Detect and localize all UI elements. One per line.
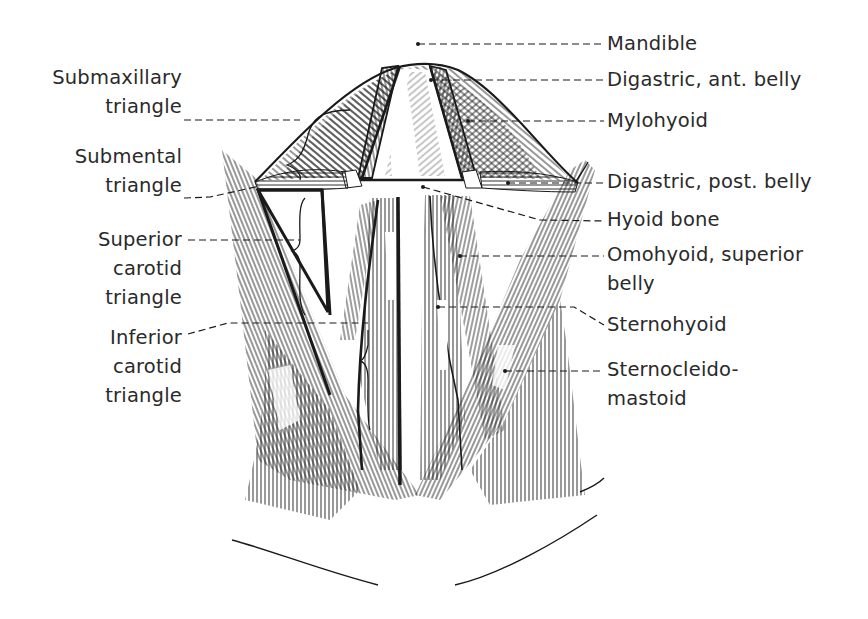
label-submaxillary-triangle: Submaxillary triangle: [52, 63, 182, 121]
label-line: Sternohyoid: [607, 310, 727, 339]
label-line: Omohyoid, superior: [607, 240, 803, 269]
label-digastric-post-belly: Digastric, post. belly: [607, 167, 812, 196]
label-line: carotid: [105, 352, 182, 381]
label-inferior-carotid-triangle: Inferior carotid triangle: [105, 323, 182, 410]
label-line: triangle: [52, 92, 182, 121]
label-submental-triangle: Submental triangle: [75, 142, 182, 200]
label-line: Superior: [98, 225, 182, 254]
label-superior-carotid-triangle: Superior carotid triangle: [98, 225, 182, 312]
label-line: Mylohyoid: [607, 106, 708, 135]
label-mandible: Mandible: [607, 29, 697, 58]
label-line: triangle: [105, 381, 182, 410]
label-line: Inferior: [105, 323, 182, 352]
label-line: triangle: [98, 283, 182, 312]
label-line: carotid: [98, 254, 182, 283]
label-line: Digastric, ant. belly: [607, 65, 801, 94]
label-line: Mandible: [607, 29, 697, 58]
label-line: mastoid: [607, 384, 739, 413]
label-omohyoid-superior-belly: Omohyoid, superior belly: [607, 240, 803, 298]
label-line: Submaxillary: [52, 63, 182, 92]
label-digastric-ant-belly: Digastric, ant. belly: [607, 65, 801, 94]
label-line: Hyoid bone: [607, 205, 720, 234]
label-hyoid-bone: Hyoid bone: [607, 205, 720, 234]
label-sternocleidomastoid: Sternocleido- mastoid: [607, 355, 739, 413]
mylohyoid-muscle: [260, 66, 575, 183]
label-sternohyoid: Sternohyoid: [607, 310, 727, 339]
label-line: belly: [607, 269, 803, 298]
label-line: triangle: [75, 171, 182, 200]
label-line: Digastric, post. belly: [607, 167, 812, 196]
label-line: Sternocleido-: [607, 355, 739, 384]
label-mylohyoid: Mylohyoid: [607, 106, 708, 135]
label-line: Submental: [75, 142, 182, 171]
